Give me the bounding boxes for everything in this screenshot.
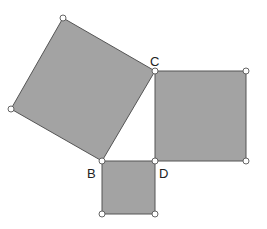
label-C: C	[150, 54, 159, 69]
vertex-point-B[interactable]	[99, 158, 105, 164]
vertex-point-D[interactable]	[152, 158, 158, 164]
square-on-BD	[102, 161, 155, 214]
square-on-CD	[155, 71, 246, 161]
label-B: B	[87, 166, 96, 181]
vertex-point[interactable]	[243, 158, 249, 164]
label-D: D	[159, 166, 168, 181]
vertex-point[interactable]	[99, 211, 105, 217]
vertex-point[interactable]	[243, 68, 249, 74]
square-on-BC	[11, 18, 155, 161]
vertex-point[interactable]	[8, 106, 14, 112]
vertex-point[interactable]	[60, 15, 66, 21]
vertex-point[interactable]	[152, 211, 158, 217]
pythagoras-diagram: C B D	[0, 0, 267, 229]
